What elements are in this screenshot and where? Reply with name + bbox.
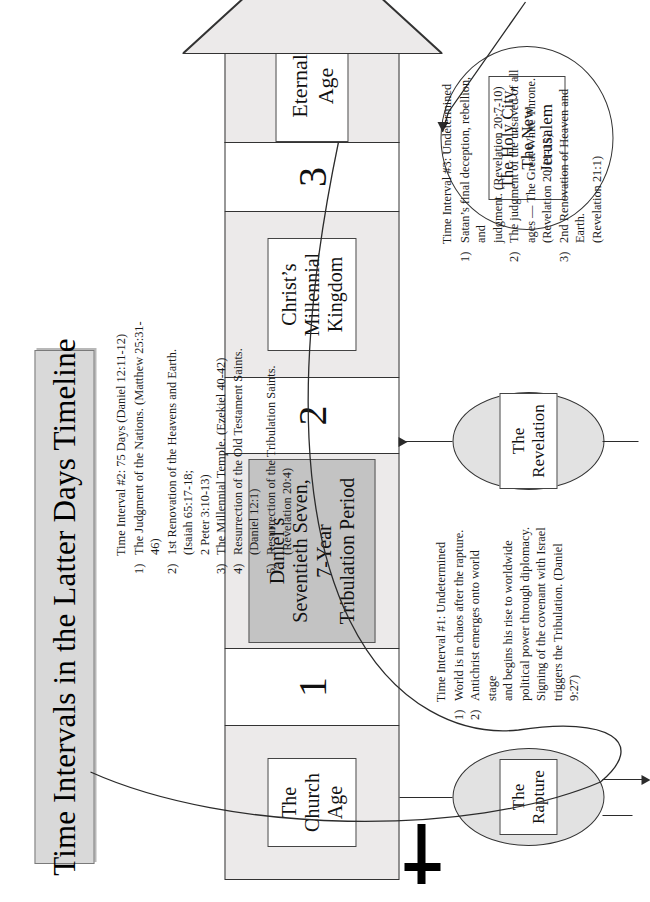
note-marker: 1) [130, 564, 147, 574]
note-line: Resurrection of the Old Testament Saints… [229, 316, 262, 555]
note-marker: 5) [262, 564, 279, 574]
note-item: 4) Resurrection of the Old Testament Sai… [229, 316, 262, 574]
note-item: 2) The judgment of the unsaved of all ag… [505, 66, 555, 262]
note-item: 1) The Judgment of the Nations. (Matthew… [130, 316, 163, 574]
note-list-interval-3: 1) Satan’s final deception, rebellion, a… [456, 66, 605, 262]
page-title: Time Intervals in the Latter Days Timeli… [34, 350, 94, 864]
note-item: 1) World is in chaos after the rapture. [450, 524, 467, 720]
note-list-interval-1: 1) World is in chaos after the rapture. … [450, 524, 582, 720]
note-list-interval-2: 1) The Judgment of the Nations. (Matthew… [130, 316, 295, 574]
note-line: ages — The Great White Throne. [522, 66, 539, 243]
note-line: Satan’s final deception, rebellion, and [456, 66, 489, 243]
note-heading-interval-3: Time Interval #3: Undetermined [438, 66, 455, 262]
note-line: (Revelation 20:11-15) [538, 66, 555, 243]
note-line: 2nd Renovation of Heaven and Earth. [555, 66, 588, 243]
note-marker: 4) [229, 564, 246, 574]
note-line: triggers the Tribulation. (Daniel 9:27) [549, 524, 582, 701]
note-line: Signing of the covenant with Israel [532, 524, 549, 701]
note-line: judgment. (Revelation 20:7-10) [489, 66, 506, 243]
note-item: 1) Satan’s final deception, rebellion, a… [456, 66, 506, 262]
note-interval-3: Time Interval #3: Undetermined 1) Satan’… [438, 66, 604, 262]
note-marker: 1) [450, 710, 467, 720]
note-item: 3) The Millennial Temple. (Ezekiel 40-42… [212, 316, 229, 574]
note-line: and begins his rise to worldwide [499, 524, 516, 701]
note-heading-interval-1: Time Interval #1: Undetermined [432, 524, 449, 720]
note-item: 2) Antichrist emerges onto world stage a… [466, 524, 582, 720]
note-marker: 2) [163, 564, 180, 574]
note-item: 5) Resurrection of the Tribulation Saint… [262, 316, 295, 574]
note-interval-2: Time Interval #2: 75 Days (Daniel 12:11-… [112, 316, 295, 574]
note-line: The judgment of the unsaved of all [505, 66, 522, 243]
note-line: political power through diplomacy. [516, 524, 533, 701]
note-line: Resurrection of the Tribulation Saints. … [262, 316, 295, 555]
note-marker: 2) [466, 710, 483, 720]
page-title-text: Time Intervals in the Latter Days Timeli… [46, 338, 82, 876]
note-line: The Millennial Temple. (Ezekiel 40-42) [212, 316, 229, 555]
note-line: 1st Renovation of the Heavens and Earth.… [163, 316, 196, 555]
note-marker: 1) [456, 252, 473, 262]
note-line: World is in chaos after the rapture. [450, 524, 467, 701]
note-marker: 2) [505, 252, 522, 262]
note-line: The Judgment of the Nations. (Matthew 25… [130, 316, 163, 555]
note-marker: 3) [212, 564, 229, 574]
note-interval-1: Time Interval #1: Undetermined 1) World … [432, 524, 582, 720]
note-item: 2) 1st Renovation of the Heavens and Ear… [163, 316, 213, 574]
note-item: 3) 2nd Renovation of Heaven and Earth. (… [555, 66, 605, 262]
note-heading-interval-2: Time Interval #2: 75 Days (Daniel 12:11-… [112, 316, 129, 574]
note-line: Antichrist emerges onto world stage [466, 524, 499, 701]
note-line: (Revelation 21:1) [588, 66, 605, 243]
note-marker: 3) [555, 252, 572, 262]
note-line: 2 Peter 3:10-13) [196, 316, 213, 555]
